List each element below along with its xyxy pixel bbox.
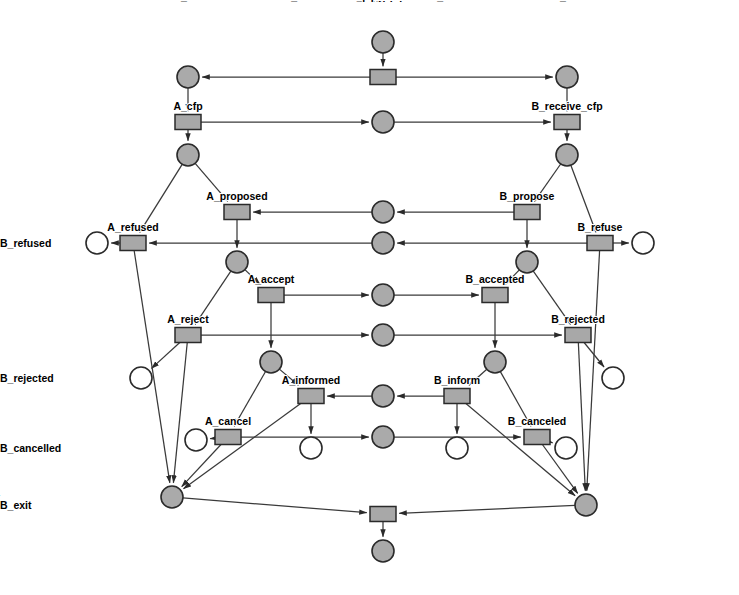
transition-label-b_rejected: B_rejected bbox=[551, 313, 605, 325]
place-a_success[interactable] bbox=[300, 437, 322, 459]
place-a_init[interactable] bbox=[177, 66, 199, 88]
petri-net-diagram: pinitA_initB_initcall_for_proposalpropos… bbox=[0, 0, 739, 595]
transition-label-a_reject: A_reject bbox=[167, 313, 209, 325]
place-b_success[interactable] bbox=[446, 437, 468, 459]
transition-b_refuse[interactable] bbox=[587, 236, 613, 251]
transition-b_accepted[interactable] bbox=[482, 288, 508, 303]
place-a_exit[interactable] bbox=[161, 486, 183, 508]
place-label-b_exit: B_exit bbox=[0, 499, 32, 511]
place-label-b_success: B_success bbox=[430, 0, 485, 2]
place-refuse[interactable] bbox=[372, 232, 394, 254]
place-reject[interactable] bbox=[372, 324, 394, 346]
place-b_exit[interactable] bbox=[575, 494, 597, 516]
transition-a_cancel[interactable] bbox=[215, 430, 241, 445]
place-pinit[interactable] bbox=[372, 31, 394, 53]
place-label-a_init: A_init bbox=[173, 0, 203, 2]
place-p_b1[interactable] bbox=[556, 144, 578, 166]
place-b_init[interactable] bbox=[556, 66, 578, 88]
transition-b_receive_cfp[interactable] bbox=[554, 115, 580, 130]
place-label-pexit: pexit bbox=[371, 0, 396, 2]
transition-label-a_refused: A_refused bbox=[107, 221, 158, 233]
place-b_rejected[interactable] bbox=[602, 367, 624, 389]
transition-a_cfp[interactable] bbox=[175, 115, 201, 130]
place-a_rejected[interactable] bbox=[130, 367, 152, 389]
place-b_refused[interactable] bbox=[632, 232, 654, 254]
place-call_for_proposal[interactable] bbox=[372, 111, 394, 133]
arc-p_b_exit-to-t_exit bbox=[399, 505, 575, 513]
transition-b_rejected[interactable] bbox=[565, 328, 591, 343]
place-p_b2[interactable] bbox=[516, 251, 538, 273]
transition-b_canceled[interactable] bbox=[524, 430, 550, 445]
place-b_cancelled[interactable] bbox=[555, 437, 577, 459]
place-p_a3[interactable] bbox=[260, 351, 282, 373]
transition-a_accept[interactable] bbox=[258, 288, 284, 303]
transition-label-a_cancel: A_cancel bbox=[205, 415, 251, 427]
transition-label-b_receive_cfp: B_receive_cfp bbox=[531, 100, 602, 112]
arc-t_a_reject-to-p_a_exit bbox=[173, 343, 187, 483]
place-label-a_success: A_success bbox=[284, 0, 339, 2]
place-label-b_refused: B_refused bbox=[0, 237, 51, 249]
transition-label-b_refuse: B_refuse bbox=[578, 221, 623, 233]
transition-a_refused[interactable] bbox=[120, 236, 146, 251]
transition-label-a_proposed: A_proposed bbox=[206, 190, 267, 202]
transition-label-b_accepted: B_accepted bbox=[466, 273, 525, 285]
transition-label-b_canceled: B_canceled bbox=[508, 415, 566, 427]
place-accept[interactable] bbox=[372, 284, 394, 306]
transition-label-b_inform: B_inform bbox=[434, 374, 480, 386]
arc-p_a_exit-to-t_exit bbox=[183, 498, 367, 513]
place-label-b_init: B_init bbox=[552, 0, 582, 2]
place-inform[interactable] bbox=[372, 385, 394, 407]
transition-a_proposed[interactable] bbox=[224, 205, 250, 220]
transition-a_informed[interactable] bbox=[298, 389, 324, 404]
place-a_refused[interactable] bbox=[86, 232, 108, 254]
place-propose[interactable] bbox=[372, 201, 394, 223]
place-p_a2[interactable] bbox=[226, 251, 248, 273]
transition-b_inform[interactable] bbox=[444, 389, 470, 404]
transition-label-a_informed: A_informed bbox=[282, 374, 340, 386]
transition-label-b_propose: B_propose bbox=[500, 190, 555, 202]
place-p_b3[interactable] bbox=[484, 351, 506, 373]
transition-label-a_accept: A_accept bbox=[248, 273, 295, 285]
arc-t_b_rejected-to-p_b_exit bbox=[578, 343, 585, 491]
transition-a_reject[interactable] bbox=[175, 328, 201, 343]
place-label-b_rejected: B_rejected bbox=[0, 372, 54, 384]
transition-b_propose[interactable] bbox=[514, 205, 540, 220]
arc-t_b_refuse-to-p_b_exit bbox=[587, 251, 600, 491]
transition-t_init[interactable] bbox=[370, 70, 396, 85]
arc-t_a_reject-to-p_a_rejected_place bbox=[151, 343, 179, 369]
transition-t_exit[interactable] bbox=[370, 507, 396, 522]
place-label-b_cancelled: B_cancelled bbox=[0, 442, 61, 454]
place-a_cancelled[interactable] bbox=[185, 429, 207, 451]
transition-label-a_cfp: A_cfp bbox=[173, 100, 202, 112]
place-p_a1[interactable] bbox=[177, 144, 199, 166]
place-pexit[interactable] bbox=[372, 540, 394, 562]
place-cancel[interactable] bbox=[372, 426, 394, 448]
